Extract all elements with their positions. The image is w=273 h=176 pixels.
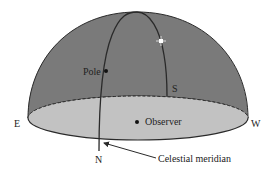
pole-label: Pole: [83, 66, 101, 77]
celestial-meridian-label: Celestial meridian: [158, 153, 231, 164]
east-label: E: [14, 118, 20, 129]
south-label: S: [172, 83, 178, 94]
pole-marker: [104, 69, 108, 73]
observer-label: Observer: [145, 116, 182, 127]
observer-marker: [135, 120, 139, 124]
north-label: N: [95, 154, 102, 165]
west-label: W: [251, 118, 261, 129]
meridian-pointer-arrow: [104, 143, 156, 158]
celestial-sphere-diagram: Pole S Observer E W N Celestial meridian: [0, 0, 273, 176]
